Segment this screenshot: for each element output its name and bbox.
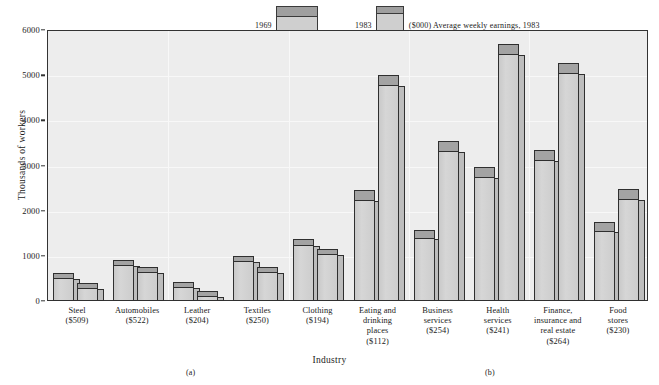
bar-1983-8	[498, 44, 519, 301]
bar-1983-2	[137, 267, 158, 301]
bar-front-face	[354, 200, 375, 301]
bar-front-face	[498, 54, 519, 301]
bar-1969-9	[534, 150, 555, 301]
bar-top-face	[53, 273, 74, 279]
x-category-line: ($230)	[582, 326, 654, 336]
bar-front-face	[173, 287, 194, 301]
bar-front-face	[113, 265, 134, 301]
bar-top-face	[594, 222, 615, 231]
bar-front-face	[618, 199, 639, 301]
bar-front-face	[257, 272, 278, 301]
x-category-line: stores	[582, 316, 654, 326]
bar-top-face	[77, 283, 98, 289]
y-tick-mark-1000	[41, 255, 45, 256]
x-category-line: ($112)	[342, 337, 414, 347]
bar-1983-6	[378, 75, 399, 301]
bar-side-face	[98, 289, 104, 301]
bar-1983-1	[77, 283, 98, 301]
x-category-label-10: Foodstores($230)	[582, 306, 654, 337]
bar-1983-9	[558, 63, 579, 301]
bar-top-face	[438, 141, 459, 152]
bar-top-face	[317, 249, 338, 255]
bar-side-face	[579, 74, 585, 301]
bar-1969-4	[233, 256, 254, 301]
subfigure-label-b: (b)	[485, 368, 495, 377]
y-axis: 0 1000 2000 3000 4000 5000 6000 Thousand…	[0, 30, 45, 301]
subfigure-label-a: (a)	[186, 368, 195, 377]
bar-top-face	[293, 239, 314, 246]
bar-front-face	[137, 272, 158, 301]
y-tick-label-0: 0	[36, 296, 40, 306]
bar-top-face	[558, 63, 579, 74]
bar-top-face	[113, 260, 134, 266]
bar-front-face	[77, 288, 98, 301]
bar-front-face	[594, 231, 615, 301]
x-axis-label: Industry	[0, 355, 659, 365]
y-tick-mark-0	[41, 300, 45, 301]
bar-side-face	[338, 255, 344, 301]
bar-top-face	[233, 256, 254, 262]
bar-1969-8	[474, 167, 495, 301]
bar-front-face	[53, 278, 74, 301]
bar-1969-1	[53, 273, 74, 301]
y-tick-mark-3000	[41, 165, 45, 166]
bar-side-face	[278, 273, 284, 301]
bar-top-face	[534, 150, 555, 161]
bar-front-face	[378, 85, 399, 301]
y-tick-label-6000: 6000	[22, 25, 40, 35]
chart-legend: 1969 1983 ($000) Average weekly earnings…	[0, 0, 659, 32]
bar-front-face	[317, 254, 338, 301]
bar-top-face	[474, 167, 495, 178]
bar-1983-7	[438, 141, 459, 301]
legend-entry-1983: 1983 ($000) Average weekly earnings, 198…	[355, 6, 540, 32]
bar-top-face	[498, 44, 519, 55]
bar-1983-3	[197, 291, 218, 301]
bar-1969-7	[414, 230, 435, 301]
bar-1969-10	[594, 222, 615, 301]
bar-1969-6	[354, 190, 375, 301]
y-tick-mark-4000	[41, 120, 45, 121]
y-tick-label-5000: 5000	[22, 70, 40, 80]
y-tick-mark-2000	[41, 210, 45, 211]
y-tick-label-1000: 1000	[22, 251, 40, 261]
bar-side-face	[519, 55, 525, 301]
bar-top-face	[414, 230, 435, 239]
bar-side-face	[639, 200, 645, 301]
bar-top-face	[137, 267, 158, 273]
bar-top-face	[197, 291, 218, 297]
x-axis-category-labels: Steel($509)Automobiles($522)Leather($204…	[47, 306, 648, 358]
y-axis-label: Thousands of workers	[17, 85, 27, 225]
bar-front-face	[293, 245, 314, 301]
bar-top-face	[257, 267, 278, 273]
bar-front-face	[534, 160, 555, 301]
bar-1969-5	[293, 239, 314, 301]
x-category-line: Food	[582, 306, 654, 316]
bar-1983-10	[618, 189, 639, 301]
bar-front-face	[233, 261, 254, 301]
bar-side-face	[218, 297, 224, 301]
bar-1969-3	[173, 282, 194, 301]
y-tick-mark-6000	[41, 29, 45, 30]
bar-side-face	[459, 152, 465, 301]
bar-top-face	[173, 282, 194, 288]
bar-front-face	[414, 238, 435, 301]
bar-top-face	[354, 190, 375, 201]
legend-swatch-1969	[276, 6, 318, 32]
bar-front-face	[558, 73, 579, 301]
bar-1983-5	[317, 249, 338, 301]
bar-front-face	[438, 151, 459, 301]
bar-front-face	[474, 177, 495, 301]
bar-side-face	[399, 86, 405, 301]
legend-entry-1969: 1969	[255, 6, 318, 32]
bar-top-face	[378, 75, 399, 86]
y-tick-mark-5000	[41, 74, 45, 75]
bar-series-container	[47, 30, 648, 301]
bar-1969-2	[113, 260, 134, 301]
bar-top-face	[618, 189, 639, 200]
legend-swatch-1983	[376, 6, 404, 32]
bar-side-face	[158, 273, 164, 301]
bar-1983-4	[257, 267, 278, 301]
x-category-line: ($264)	[522, 337, 594, 347]
